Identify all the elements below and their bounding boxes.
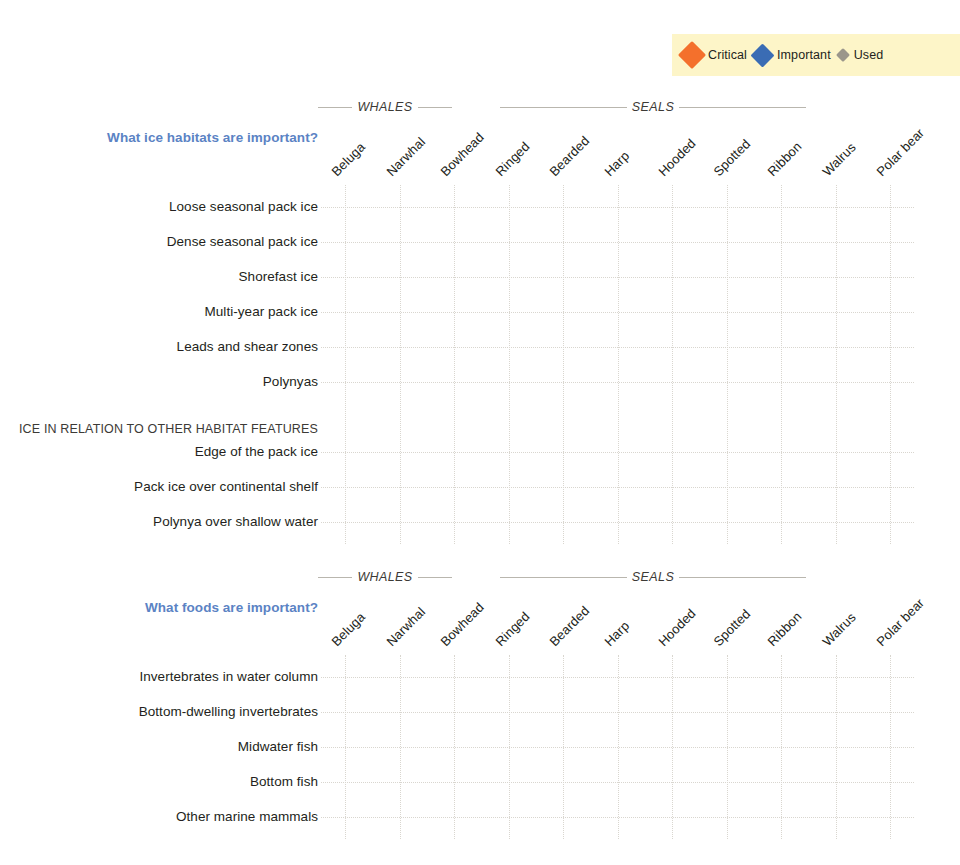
row-label: Polynya over shallow water bbox=[18, 514, 318, 529]
row-label: Midwater fish bbox=[18, 739, 318, 754]
group-rule-left bbox=[318, 107, 352, 108]
gridline-horizontal bbox=[321, 487, 914, 489]
gridline-horizontal bbox=[321, 382, 914, 384]
column-header-spotted: Spotted bbox=[710, 606, 753, 649]
column-header-bowhead: Bowhead bbox=[437, 600, 486, 649]
chart-ice-habitats: What ice habitats are important? WHALES … bbox=[0, 0, 960, 560]
row-label: Pack ice over continental shelf bbox=[18, 479, 318, 494]
gridline-vertical bbox=[509, 185, 511, 544]
group-rule-left bbox=[318, 577, 352, 578]
section-header: ICE IN RELATION TO OTHER HABITAT FEATURE… bbox=[18, 422, 318, 436]
column-header-spotted: Spotted bbox=[710, 136, 753, 179]
column-group-seals: SEALS bbox=[500, 100, 806, 114]
group-label-whales: WHALES bbox=[357, 100, 412, 114]
row-label: Multi-year pack ice bbox=[18, 304, 318, 319]
gridline-horizontal bbox=[321, 712, 914, 714]
column-header-hooded: Hooded bbox=[655, 136, 698, 179]
gridline-horizontal bbox=[321, 782, 914, 784]
group-rule-left bbox=[500, 107, 627, 108]
gridline-horizontal bbox=[321, 452, 914, 454]
column-header-harp: Harp bbox=[601, 148, 632, 179]
gridline-vertical bbox=[727, 185, 729, 544]
row-label: Bottom fish bbox=[18, 774, 318, 789]
column-group-whales: WHALES bbox=[318, 100, 452, 114]
column-header-bearded: Bearded bbox=[546, 133, 592, 179]
column-header-ringed: Ringed bbox=[492, 139, 532, 179]
column-header-bowhead: Bowhead bbox=[437, 130, 486, 179]
row-label: Shorefast ice bbox=[18, 269, 318, 284]
gridline-vertical bbox=[672, 185, 674, 544]
column-header-narwhal: Narwhal bbox=[383, 134, 428, 179]
column-header-narwhal: Narwhal bbox=[383, 604, 428, 649]
row-label: Bottom-dwelling invertebrates bbox=[18, 704, 318, 719]
gridline-horizontal bbox=[321, 207, 914, 209]
gridline-horizontal bbox=[321, 277, 914, 279]
gridline-horizontal bbox=[321, 747, 914, 749]
row-label: Dense seasonal pack ice bbox=[18, 234, 318, 249]
gridline-vertical bbox=[345, 185, 347, 544]
row-label: Invertebrates in water column bbox=[18, 669, 318, 684]
row-label: Edge of the pack ice bbox=[18, 444, 318, 459]
row-label: Polynyas bbox=[18, 374, 318, 389]
gridline-vertical bbox=[563, 185, 565, 544]
gridline-vertical bbox=[400, 185, 402, 544]
row-label: Loose seasonal pack ice bbox=[18, 199, 318, 214]
gridline-vertical bbox=[781, 185, 783, 544]
column-header-ringed: Ringed bbox=[492, 609, 532, 649]
group-rule-right bbox=[679, 577, 806, 578]
row-label: Leads and shear zones bbox=[18, 339, 318, 354]
group-label-whales: WHALES bbox=[357, 570, 412, 584]
column-header-beluga: Beluga bbox=[328, 609, 368, 649]
gridline-horizontal bbox=[321, 522, 914, 524]
group-rule-right bbox=[418, 577, 452, 578]
column-header-walrus: Walrus bbox=[819, 140, 858, 179]
column-header-beluga: Beluga bbox=[328, 139, 368, 179]
column-group-whales: WHALES bbox=[318, 570, 452, 584]
group-label-seals: SEALS bbox=[632, 570, 674, 584]
column-header-harp: Harp bbox=[601, 618, 632, 649]
gridline-horizontal bbox=[321, 242, 914, 244]
gridline-vertical bbox=[618, 185, 620, 544]
row-label: Other marine mammals bbox=[18, 809, 318, 824]
column-header-ribbon: Ribbon bbox=[764, 139, 804, 179]
gridline-horizontal bbox=[321, 347, 914, 349]
chart-foods: What foods are important? WHALES SEALS B… bbox=[0, 560, 960, 865]
column-header-bearded: Bearded bbox=[546, 603, 592, 649]
gridline-vertical bbox=[836, 185, 838, 544]
group-rule-left bbox=[500, 577, 627, 578]
column-header-polar-bear: Polar bear bbox=[873, 125, 927, 179]
group-label-seals: SEALS bbox=[632, 100, 674, 114]
gridline-vertical bbox=[890, 185, 892, 544]
chart-title-ice: What ice habitats are important? bbox=[18, 130, 318, 145]
gridline-vertical bbox=[454, 185, 456, 544]
gridline-horizontal bbox=[321, 817, 914, 819]
group-rule-right bbox=[679, 107, 806, 108]
chart-title-food: What foods are important? bbox=[18, 600, 318, 615]
group-rule-right bbox=[418, 107, 452, 108]
column-header-polar-bear: Polar bear bbox=[873, 595, 927, 649]
gridline-horizontal bbox=[321, 312, 914, 314]
column-group-seals: SEALS bbox=[500, 570, 806, 584]
column-header-hooded: Hooded bbox=[655, 606, 698, 649]
gridline-horizontal bbox=[321, 677, 914, 679]
column-header-ribbon: Ribbon bbox=[764, 609, 804, 649]
column-header-walrus: Walrus bbox=[819, 610, 858, 649]
